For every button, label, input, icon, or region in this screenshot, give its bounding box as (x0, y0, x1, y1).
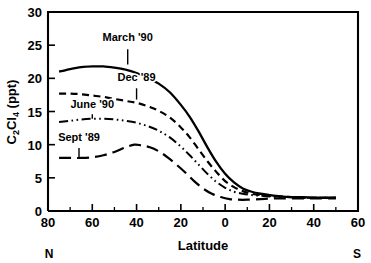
hemisphere-label-south: S (353, 247, 361, 261)
y-tick-label: 25 (28, 38, 42, 53)
x-tick-label: 20 (262, 215, 276, 230)
chart-figure: 806040200204060 051015202530 March '90Ma… (0, 0, 371, 263)
x-tick-label: 40 (306, 215, 320, 230)
y-tick-label: 15 (28, 105, 42, 120)
series-label: June '90 (70, 98, 114, 110)
x-tick-label: 0 (222, 215, 229, 230)
chart-canvas: 806040200204060 051015202530 March '90Ma… (0, 0, 371, 263)
x-tick-label: 80 (41, 215, 55, 230)
hemisphere-label-north: N (45, 247, 54, 261)
series-label: Dec '89 (118, 71, 156, 83)
x-tick-label: 60 (85, 215, 99, 230)
y-tick-label: 5 (35, 171, 42, 186)
x-tick-label: 40 (129, 215, 143, 230)
y-axis-title-cl: Cl (4, 117, 19, 130)
x-axis-title: Latitude (178, 238, 229, 253)
y-tick-label: 0 (35, 204, 42, 219)
y-tick-label: 30 (28, 5, 42, 20)
y-tick-label: 20 (28, 71, 42, 86)
x-tick-label: 20 (174, 215, 188, 230)
y-tick-label: 10 (28, 138, 42, 153)
series-label: March '90 (103, 31, 153, 43)
y-axis-title-units: (ppt) (4, 80, 19, 112)
series-label: Sept '89 (58, 131, 100, 143)
x-tick-label: 60 (351, 215, 365, 230)
